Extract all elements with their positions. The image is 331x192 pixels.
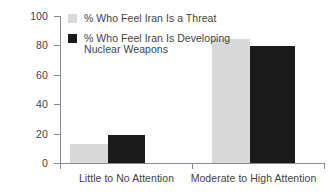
y-tick-mark-60 bbox=[54, 75, 61, 76]
x-tick-mark-left-edge bbox=[60, 163, 61, 169]
legend-label-nuclear: % Who Feel Iran Is Developing Nuclear We… bbox=[84, 33, 244, 56]
bar-chart: 100 80 60 40 20 0 Little to No Attention… bbox=[0, 0, 331, 192]
x-axis-label-moderate-to-high-attention: Moderate to High Attention bbox=[171, 172, 331, 184]
bar-threat-little-to-no-attention bbox=[70, 144, 108, 163]
y-tick-label-100: 100 bbox=[0, 11, 48, 21]
bar-nuclear-moderate-to-high-attention bbox=[250, 46, 295, 163]
legend-item-nuclear: % Who Feel Iran Is Developing Nuclear We… bbox=[68, 33, 244, 56]
bar-nuclear-little-to-no-attention bbox=[108, 135, 145, 163]
legend-swatch-black-icon bbox=[68, 34, 77, 43]
y-tick-mark-20 bbox=[54, 134, 61, 135]
y-tick-label-80: 80 bbox=[0, 40, 48, 50]
y-tick-label-0: 0 bbox=[0, 158, 48, 168]
y-tick-mark-40 bbox=[54, 104, 61, 105]
legend-swatch-light-gray-icon bbox=[68, 14, 77, 23]
y-tick-label-60: 60 bbox=[0, 70, 48, 80]
x-tick-mark-group-divider bbox=[192, 163, 193, 169]
legend-item-threat: % Who Feel Iran Is a Threat bbox=[68, 13, 244, 25]
x-tick-mark-right-edge bbox=[324, 163, 325, 169]
y-axis-line bbox=[60, 16, 61, 164]
y-tick-label-40: 40 bbox=[0, 99, 48, 109]
y-tick-mark-80 bbox=[54, 45, 61, 46]
legend-label-threat: % Who Feel Iran Is a Threat bbox=[84, 13, 216, 25]
y-tick-label-20: 20 bbox=[0, 129, 48, 139]
y-tick-mark-100 bbox=[54, 16, 61, 17]
chart-legend: % Who Feel Iran Is a Threat % Who Feel I… bbox=[68, 13, 244, 64]
